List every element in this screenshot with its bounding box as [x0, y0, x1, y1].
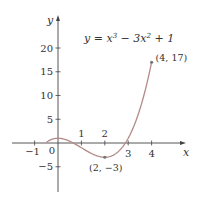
chart-svg: x y −101234 −55101520 y = x3 − 3x2 + 1 (…	[0, 0, 200, 200]
y-tick-label: 15	[40, 66, 53, 77]
x-tick-label: 0	[49, 145, 55, 156]
point-label: (4, 17)	[156, 52, 188, 63]
x-tick-label: 4	[148, 148, 154, 159]
point-marker	[150, 61, 153, 64]
equation-label: y = x3 − 3x2 + 1	[83, 32, 174, 45]
x-ticks: −101234	[25, 128, 155, 159]
x-tick-label: 2	[102, 128, 108, 139]
y-axis-label: y	[46, 14, 54, 27]
chart-container: x y −101234 −55101520 y = x3 − 3x2 + 1 (…	[0, 0, 200, 200]
x-tick-label: 1	[78, 128, 84, 139]
y-tick-label: 5	[47, 114, 53, 125]
x-axis-label: x	[183, 146, 190, 159]
x-tick-label: −1	[25, 146, 40, 157]
x-tick-label: 3	[125, 148, 131, 159]
y-tick-label: 10	[40, 90, 53, 101]
y-tick-label: −5	[38, 161, 53, 172]
point-marker	[103, 156, 106, 159]
x-axis-arrow-icon	[180, 141, 186, 145]
point-label: (2, −3)	[89, 162, 123, 173]
y-tick-label: 20	[40, 43, 53, 54]
y-axis-arrow-icon	[56, 15, 60, 21]
